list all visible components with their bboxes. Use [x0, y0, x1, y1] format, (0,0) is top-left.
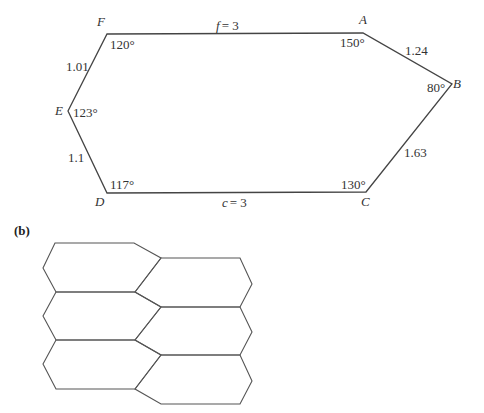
hexagon-diagram: F A B C D E 120° 150° 80° 130° 117° 123°…: [54, 12, 461, 210]
hexagon-outline: [68, 33, 452, 193]
vertex-label-E: E: [54, 103, 63, 118]
side-label-CD: c= 3: [222, 195, 247, 210]
hexagon-tiling: [43, 243, 252, 404]
angle-label-A: 150°: [340, 35, 365, 50]
side-label-DE: 1.1: [68, 150, 84, 165]
tile-right-2: [135, 307, 252, 355]
side-label-EF: 1.01: [66, 59, 89, 74]
tile-right-3: [135, 355, 252, 404]
tile-left-3: [43, 340, 161, 389]
tile-left-2: [43, 292, 161, 340]
angle-label-E: 123°: [73, 105, 98, 120]
vertex-label-B: B: [453, 76, 461, 91]
tile-left-1: [43, 243, 161, 292]
side-label-FA: f= 3: [216, 18, 239, 33]
angle-label-C: 130°: [341, 177, 366, 192]
tile-right-1: [135, 258, 252, 307]
vertex-label-D: D: [94, 194, 105, 209]
vertex-label-A: A: [358, 12, 367, 27]
angle-label-F: 120°: [110, 37, 135, 52]
vertex-label-F: F: [96, 14, 106, 29]
vertex-label-C: C: [361, 194, 370, 209]
angle-label-B: 80°: [427, 80, 445, 95]
side-label-BC: 1.63: [404, 145, 427, 160]
angle-label-D: 117°: [110, 177, 134, 192]
figure-canvas: F A B C D E 120° 150° 80° 130° 117° 123°…: [0, 0, 484, 413]
side-label-AB: 1.24: [405, 43, 428, 58]
part-b-label: (b): [14, 223, 30, 238]
